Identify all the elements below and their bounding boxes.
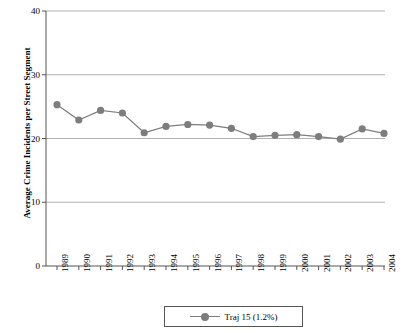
line-marker-icon xyxy=(190,312,220,322)
y-tick-label-20: 20 xyxy=(18,135,40,144)
y-tick-label-30: 30 xyxy=(18,71,40,80)
y-tick-label-40: 40 xyxy=(18,7,40,16)
data-point xyxy=(250,133,257,140)
data-point xyxy=(75,116,82,123)
data-point xyxy=(53,101,60,108)
x-tick-label-1998: 1998 xyxy=(257,254,266,272)
y-tick-label-0: 0 xyxy=(18,262,40,271)
x-tick-label-1994: 1994 xyxy=(170,254,179,272)
series-markers-traj-15 xyxy=(53,101,387,143)
data-point xyxy=(228,125,235,132)
x-tick-label-2002: 2002 xyxy=(344,254,353,272)
data-point xyxy=(271,132,278,139)
x-tick-label-1995: 1995 xyxy=(192,254,201,272)
x-tick-label-1991: 1991 xyxy=(105,254,114,272)
data-point xyxy=(206,122,213,129)
data-point xyxy=(359,125,366,132)
x-tick-label-2003: 2003 xyxy=(366,254,375,272)
legend-label-traj-15: Traj 15 (1.2%) xyxy=(225,312,278,322)
x-tick-label-1996: 1996 xyxy=(214,254,223,272)
x-tick-label-1993: 1993 xyxy=(148,254,157,272)
data-point xyxy=(337,136,344,143)
data-point xyxy=(380,130,387,137)
x-tick-label-2000: 2000 xyxy=(301,254,310,272)
x-tick-label-2004: 2004 xyxy=(388,254,397,272)
x-tick-label-1992: 1992 xyxy=(126,254,135,272)
grid-lines xyxy=(46,11,385,202)
data-point xyxy=(315,133,322,140)
plot-area xyxy=(0,0,401,335)
data-point xyxy=(97,107,104,114)
data-point xyxy=(293,131,300,138)
y-axis-ticks xyxy=(42,11,46,266)
line-chart: Average Crime Incidents per Street Segme… xyxy=(0,0,401,335)
data-point xyxy=(141,129,148,136)
x-tick-label-1989: 1989 xyxy=(61,254,70,272)
series-line-traj-15 xyxy=(57,105,384,139)
x-tick-label-2001: 2001 xyxy=(323,254,332,272)
y-tick-label-10: 10 xyxy=(18,198,40,207)
x-tick-label-1990: 1990 xyxy=(83,254,92,272)
x-tick-label-1997: 1997 xyxy=(235,254,244,272)
x-tick-label-1999: 1999 xyxy=(279,254,288,272)
data-point xyxy=(184,121,191,128)
data-point xyxy=(162,123,169,130)
y-axis-title: Average Crime Incidents per Street Segme… xyxy=(22,2,32,264)
data-point xyxy=(119,109,126,116)
chart-legend: Traj 15 (1.2%) xyxy=(164,306,303,327)
